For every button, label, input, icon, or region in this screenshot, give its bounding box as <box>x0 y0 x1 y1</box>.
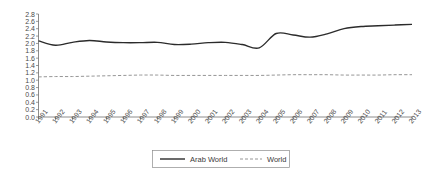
y-axis-tick-label: 1.0 <box>25 77 35 84</box>
chart-legend: Arab World World <box>153 151 290 168</box>
x-axis-tick-label: 1993 <box>68 108 83 125</box>
y-axis-tick-label: 2.2 <box>25 33 35 40</box>
chart-screenshot: 0.00.20.40.60.81.01.21.41.61.82.02.22.42… <box>0 0 423 175</box>
line-chart: 0.00.20.40.60.81.01.21.41.61.82.02.22.42… <box>0 0 423 175</box>
y-axis-tick-label: 0.4 <box>25 99 35 106</box>
x-axis-tick-label: 2000 <box>187 108 202 125</box>
y-axis-tick-label: 0.2 <box>25 106 35 113</box>
x-axis-tick-label: 2013 <box>407 108 422 125</box>
y-axis-tick-label: 1.8 <box>25 47 35 54</box>
x-axis-tick-label: 2009 <box>339 108 354 125</box>
x-axis-tick-label: 1997 <box>136 108 151 125</box>
y-axis-tick-label: 1.2 <box>25 69 35 76</box>
x-axis-tick-label: 1999 <box>170 108 185 125</box>
y-axis-tick-label: 2.6 <box>25 18 35 25</box>
legend-label-world: World <box>267 155 286 164</box>
x-axis-tick-label: 2006 <box>288 108 303 125</box>
y-axis-tick-label: 2.0 <box>25 40 35 47</box>
x-axis-tick-label: 2007 <box>305 108 320 125</box>
y-axis-tick-label: 0.8 <box>25 84 35 91</box>
y-axis-tick-labels: 0.00.20.40.60.81.01.21.41.61.82.02.22.42… <box>25 11 35 121</box>
y-axis-tick-label: 2.4 <box>25 25 35 32</box>
chart-svg: 0.00.20.40.60.81.01.21.41.61.82.02.22.42… <box>0 0 423 175</box>
x-axis-tick-label: 1991 <box>34 108 49 125</box>
x-axis-tick-label: 2004 <box>254 108 269 125</box>
x-axis-tick-label: 1996 <box>119 108 134 125</box>
series-line-world <box>39 75 413 77</box>
y-axis-tick-label: 0.6 <box>25 91 35 98</box>
x-axis-tick-label: 1998 <box>153 108 168 125</box>
y-axis-tick-label: 2.8 <box>25 11 35 18</box>
x-axis-tick-label: 2002 <box>221 108 236 125</box>
legend-label-arab-world: Arab World <box>190 155 227 164</box>
y-axis-tick-label: 1.4 <box>25 62 35 69</box>
x-axis-tick-label: 1992 <box>51 108 66 125</box>
x-axis-tick-label: 2011 <box>373 108 388 124</box>
x-axis-tick-label: 2008 <box>322 108 337 125</box>
x-axis-tick-label: 1995 <box>102 108 117 125</box>
x-axis-tick-label: 2003 <box>237 108 252 125</box>
x-axis-tick-labels: 1991199219931994199519961997199819992000… <box>34 108 423 125</box>
x-axis-tick-label: 2010 <box>356 108 371 125</box>
x-axis-tick-label: 2012 <box>390 108 405 125</box>
series-line-arab-world <box>39 24 413 48</box>
x-axis-tick-label: 1994 <box>85 108 100 125</box>
x-axis-tick-label: 2005 <box>271 108 286 125</box>
y-axis-tick-label: 1.6 <box>25 55 35 62</box>
x-axis-tick-label: 2001 <box>204 108 219 125</box>
